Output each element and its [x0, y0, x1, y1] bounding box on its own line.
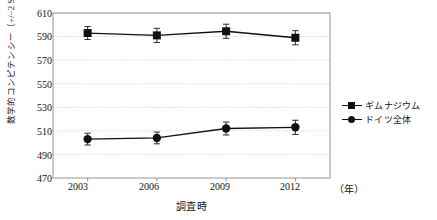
x-tick-label: 2009	[196, 181, 244, 192]
x-axis-unit-label: （年）	[334, 181, 364, 196]
series-line	[88, 127, 296, 139]
x-tick-label: 2003	[54, 181, 102, 192]
legend-item-label: ドイツ全体	[362, 113, 412, 126]
x-axis-title: 調査時	[53, 198, 330, 213]
legend-item-label: ギムナジウム	[362, 99, 421, 112]
data-point-marker	[222, 124, 230, 132]
data-point-marker	[84, 29, 92, 37]
chart-legend: ギムナジウム ドイツ全体	[342, 98, 437, 126]
data-point-marker	[83, 135, 91, 143]
chart-figure: 数学的コンピテンシー（+/−2 SE） 610 590 570 550 530 …	[0, 0, 437, 220]
x-tick-label: 2012	[266, 181, 314, 192]
legend-item-germany-total[interactable]: ドイツ全体	[342, 112, 437, 126]
data-point-marker	[153, 134, 161, 142]
x-tick-label: 2006	[125, 181, 173, 192]
legend-item-gymnasium[interactable]: ギムナジウム	[342, 98, 437, 112]
data-point-marker	[153, 31, 161, 39]
square-marker-icon	[342, 99, 362, 111]
data-point-marker	[291, 34, 299, 42]
data-point-marker	[222, 27, 230, 35]
circle-marker-icon	[342, 113, 362, 125]
data-point-marker	[291, 123, 299, 131]
